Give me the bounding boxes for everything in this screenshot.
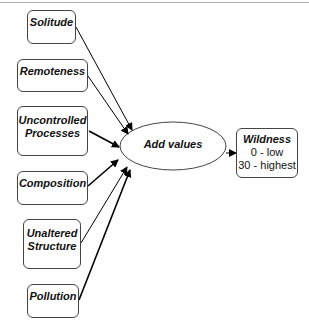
input-solitude: Solitude [27, 10, 76, 44]
input-label: Remoteness [18, 60, 87, 78]
input-label: Unaltered Structure [24, 220, 80, 253]
input-composition: Composition [17, 171, 88, 205]
input-label: Pollution [28, 285, 78, 303]
output-wildness: Wildness 0 - low 30 - highest [236, 128, 298, 178]
input-pollution: Pollution [27, 284, 79, 318]
output-high: 30 - highest [237, 159, 297, 172]
input-label: Uncontrolled Processes [18, 107, 87, 140]
input-remoteness: Remoteness [17, 59, 88, 92]
output-low: 0 - low [237, 146, 297, 159]
input-label: Composition [18, 172, 87, 190]
input-label: Solitude [28, 11, 75, 29]
output-title: Wildness [237, 129, 297, 146]
input-uncontrolled-processes: Uncontrolled Processes [17, 106, 88, 156]
operation-label: Add values [120, 138, 226, 150]
input-unaltered-structure: Unaltered Structure [23, 219, 81, 269]
